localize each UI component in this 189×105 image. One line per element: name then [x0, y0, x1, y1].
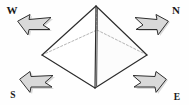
arrow-north	[135, 15, 170, 37]
pyramid-shape	[42, 6, 147, 88]
direction-label-east: E	[174, 92, 180, 102]
arrow-south	[20, 72, 55, 95]
arrow-west	[18, 15, 53, 37]
pyramid-direction-diagram: W N S E	[0, 0, 189, 105]
figure-container: W N S E	[0, 0, 189, 105]
direction-label-west: W	[7, 4, 18, 16]
direction-label-north: N	[172, 4, 180, 16]
direction-label-south: S	[10, 90, 15, 100]
arrow-east	[133, 72, 168, 95]
